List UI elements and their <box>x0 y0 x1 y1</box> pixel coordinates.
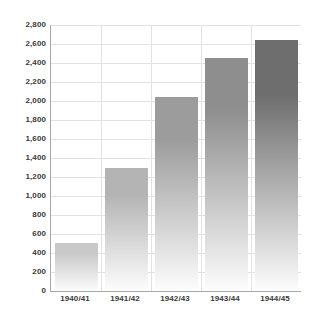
gridline-vertical <box>151 25 152 291</box>
bar-chart: 02004006008001,0001,2001,4001,6001,8002,… <box>0 0 319 322</box>
gridline-horizontal <box>51 25 301 26</box>
y-axis-tick-label: 1,800 <box>2 116 46 124</box>
bar <box>105 168 148 292</box>
y-axis-tick-label: 400 <box>2 249 46 257</box>
gridline-vertical <box>251 25 252 291</box>
bar <box>205 58 248 291</box>
y-axis-tick-label: 2,800 <box>2 21 46 29</box>
y-axis-tick-label: 600 <box>2 230 46 238</box>
y-axis-tick-label: 1,200 <box>2 173 46 181</box>
x-axis-tick-label: 1943/44 <box>210 294 240 303</box>
bar <box>55 243 98 291</box>
gridline-vertical <box>201 25 202 291</box>
x-axis: 1940/411941/421942/431943/441944/45 <box>50 294 300 312</box>
y-axis-tick-label: 2,200 <box>2 78 46 86</box>
gridline-vertical <box>101 25 102 291</box>
y-axis-tick-label: 800 <box>2 211 46 219</box>
plot-area <box>50 25 301 292</box>
y-axis-tick-label: 1,000 <box>2 192 46 200</box>
y-axis-tick-label: 2,400 <box>2 59 46 67</box>
y-axis-tick-label: 2,000 <box>2 97 46 105</box>
x-axis-tick-label: 1941/42 <box>110 294 140 303</box>
y-axis-tick-label: 1,600 <box>2 135 46 143</box>
x-axis-tick-label: 1944/45 <box>260 294 290 303</box>
x-axis-tick-label: 1940/41 <box>60 294 90 303</box>
y-axis: 02004006008001,0001,2001,4001,6001,8002,… <box>0 25 46 291</box>
x-axis-tick-label: 1942/43 <box>160 294 190 303</box>
bar <box>155 97 198 291</box>
bar <box>255 40 298 291</box>
y-axis-tick-label: 200 <box>2 268 46 276</box>
y-axis-tick-label: 0 <box>2 287 46 295</box>
y-axis-tick-label: 2,600 <box>2 40 46 48</box>
y-axis-tick-label: 1,400 <box>2 154 46 162</box>
